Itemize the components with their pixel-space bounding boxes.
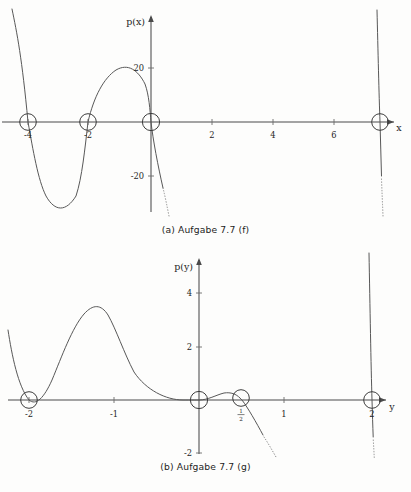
fraction-numerator: 1 (239, 408, 243, 414)
x-axis-label-b: y (388, 401, 395, 412)
y-tick-label-b-4: 4 (187, 288, 192, 298)
fraction-denominator: 2 (239, 416, 243, 422)
curve-a-right-dotted-tail (382, 179, 384, 216)
x-tick-label-a-4: 6 (331, 130, 336, 140)
y-axis-b (196, 258, 202, 454)
curve-b-main (8, 307, 263, 435)
y-tick-label-a-20: 20 (133, 63, 144, 73)
x-tick-label-a-3: 4 (270, 130, 275, 140)
x-axis-a (2, 119, 394, 125)
chart-a-svg: -4 -2 2 4 6 20 -20 p(x) x (0, 0, 411, 220)
plot-area-a: -4 -2 2 4 6 20 -20 p(x) x (0, 0, 411, 220)
curve-b-right-dotted-tail (373, 440, 374, 458)
x-tick-label-b-one-half: 1 2 (238, 408, 245, 422)
curve-a-dotted-tail (163, 188, 169, 216)
y-axis-arrow-icon (196, 258, 202, 265)
root-marker-circle (233, 390, 250, 407)
x-tick-label-a-1: -2 (84, 130, 92, 140)
y-tick-label-a-neg20: -20 (131, 171, 144, 181)
figure-a-caption: (a) Aufgabe 7.7 (f) (0, 224, 411, 235)
x-axis-label-a: x (396, 122, 402, 133)
chart-b-svg: -2 -1 1 2 1 2 4 2 -2 p(y) y (0, 246, 411, 461)
y-tick-label-b-2: 2 (187, 342, 192, 352)
figure-a: -4 -2 2 4 6 20 -20 p(x) x (a) Aufgabe 7.… (0, 0, 411, 246)
x-tick-label-a-0: -4 (24, 130, 32, 140)
y-axis-label-a: p(x) (126, 16, 145, 27)
figure-b-caption: (b) Aufgabe 7.7 (g) (0, 461, 411, 472)
x-tick-label-a-2: 2 (209, 130, 214, 140)
y-tick-label-b-neg2: -2 (184, 448, 192, 458)
x-tick-label-b-1: -1 (110, 409, 118, 419)
figure-page: -4 -2 2 4 6 20 -20 p(x) x (a) Aufgabe 7.… (0, 0, 411, 492)
y-axis-label-b: p(y) (174, 261, 193, 272)
plot-area-b: -2 -1 1 2 1 2 4 2 -2 p(y) y (0, 246, 411, 461)
curve-b-dotted-tail (264, 437, 276, 457)
figure-b: -2 -1 1 2 1 2 4 2 -2 p(y) y (b) Aufgabe … (0, 246, 411, 492)
curve-a-right-branch (377, 10, 382, 176)
y-axis-arrow-icon (148, 15, 154, 22)
x-tick-label-b-0: -2 (25, 409, 33, 419)
x-tick-label-b-4: 2 (369, 409, 374, 419)
x-tick-label-b-3: 1 (281, 409, 286, 419)
